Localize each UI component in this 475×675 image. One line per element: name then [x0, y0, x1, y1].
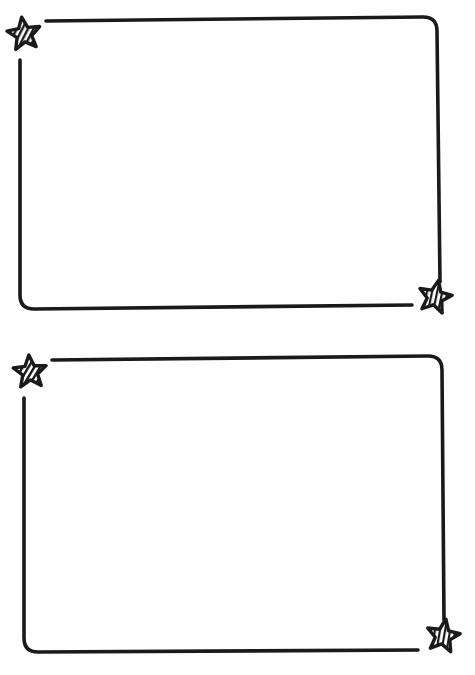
frame-top-border	[20, 17, 440, 309]
frame-bottom-border	[24, 356, 444, 652]
striped-star-icon	[5, 15, 42, 50]
frame-bottom	[12, 354, 462, 653]
striped-star-icon	[416, 277, 455, 314]
printable-page: Star corner frames	[0, 0, 475, 675]
striped-star-icon	[12, 354, 47, 387]
frame-top	[5, 15, 454, 314]
striped-star-icon	[424, 616, 462, 652]
frames-artwork	[0, 0, 475, 675]
